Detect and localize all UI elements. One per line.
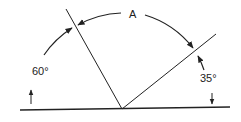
label-35: 35° [200, 72, 217, 84]
arc-A-right [145, 15, 193, 48]
angle-diagram: A 60° 35° [0, 0, 241, 122]
left-ray [66, 9, 122, 109]
arc-35-upper [198, 56, 204, 70]
label-A: A [129, 8, 137, 20]
arc-60-upper [44, 28, 72, 55]
baseline [20, 107, 230, 110]
label-60: 60° [32, 65, 49, 77]
arc-A-left [78, 13, 121, 25]
